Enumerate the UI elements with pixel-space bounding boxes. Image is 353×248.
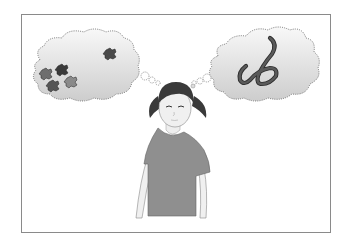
- illustration-canvas: [0, 0, 353, 248]
- right-thought-cloud: [192, 27, 320, 101]
- shirt: [144, 128, 210, 216]
- girl-figure: [136, 82, 210, 218]
